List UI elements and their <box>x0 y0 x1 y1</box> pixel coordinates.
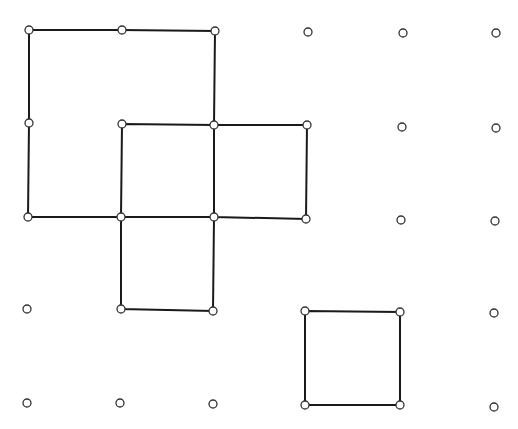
grid-dot-r3-c0 <box>23 305 31 313</box>
dot-grid-diagram <box>0 0 518 429</box>
grid-dot-r4-c3 <box>301 401 309 409</box>
grid-dot-r0-c2 <box>211 27 219 35</box>
lower-right-square <box>305 311 400 405</box>
grid-dot-r0-c5 <box>492 29 500 37</box>
grid-dot-r3-c4 <box>396 308 404 316</box>
grid-dot-r2-c1 <box>117 213 125 221</box>
grid-dot-r1-c3 <box>303 121 311 129</box>
grid-dot-r1-c2 <box>210 121 218 129</box>
grid-dot-r0-c1 <box>118 26 126 34</box>
grid-dot-r3-c1 <box>117 305 125 313</box>
grid-dot-r2-c5 <box>491 217 499 225</box>
center-square <box>121 124 214 217</box>
grid-dot-r2-c3 <box>302 215 310 223</box>
grid-dot-r2-c2 <box>210 213 218 221</box>
grid-dot-r3-c2 <box>209 307 217 315</box>
grid-dot-r4-c2 <box>209 400 217 408</box>
grid-dot-r2-c0 <box>24 213 32 221</box>
right-square <box>214 125 307 219</box>
grid-dot-r3-c3 <box>301 307 309 315</box>
grid-dot-r4-c1 <box>116 399 124 407</box>
grid-dot-r0-c0 <box>25 26 33 34</box>
grid-dot-r1-c4 <box>398 123 406 131</box>
grid-dot-r3-c5 <box>490 309 498 317</box>
grid-dot-r0-c3 <box>304 28 312 36</box>
grid-dot-r1-c5 <box>492 124 500 132</box>
grid-dot-r2-c4 <box>397 216 405 224</box>
grid-dot-r4-c0 <box>23 399 31 407</box>
grid-dot-r4-c4 <box>396 401 404 409</box>
bottom-square <box>121 217 214 311</box>
grid-dot-r1-c1 <box>118 120 126 128</box>
grid-dot-r1-c0 <box>25 119 33 127</box>
grid-dot-r0-c4 <box>399 29 407 37</box>
grid-dot-r4-c5 <box>490 403 498 411</box>
